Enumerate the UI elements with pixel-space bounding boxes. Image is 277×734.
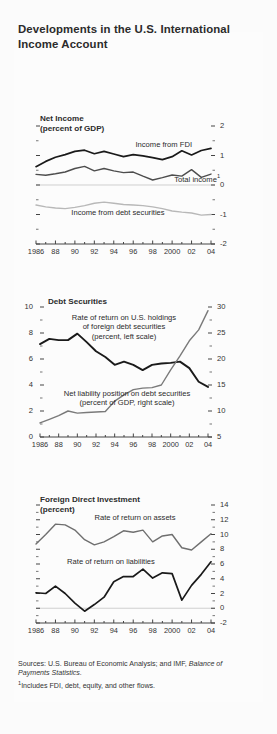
y-axis-label-5: 8 bbox=[220, 544, 224, 553]
y-axis-label-8: 14 bbox=[220, 500, 228, 509]
x-axis-tick-3: 92 bbox=[90, 247, 98, 256]
sources-label: Sources: bbox=[18, 660, 46, 668]
y-axis-label-left-4: 8 bbox=[29, 328, 33, 337]
y-axis-label-right-2: 15 bbox=[217, 380, 225, 389]
y-axis-label-3: 4 bbox=[220, 574, 224, 583]
x-axis-tick-3: 92 bbox=[90, 626, 98, 635]
series-line-0 bbox=[36, 148, 211, 166]
y-axis-label-3: 1 bbox=[220, 151, 224, 160]
chart-panel-net-income: Net Income (percent of GDP) -2-101219868… bbox=[0, 112, 249, 282]
x-axis-tick-1: 88 bbox=[51, 626, 59, 635]
y-axis-label-right-4: 25 bbox=[217, 328, 225, 337]
x-axis-tick-5: 96 bbox=[129, 247, 137, 256]
series-annotation-0: Income from FDI bbox=[112, 140, 192, 149]
y-axis-label-right-3: 20 bbox=[217, 354, 225, 363]
x-axis-tick-3: 92 bbox=[92, 440, 100, 449]
y-axis-label-4: 6 bbox=[220, 559, 224, 568]
x-axis-tick-4: 94 bbox=[110, 247, 118, 256]
footnote-text: Includes FDI, debt, equity, and other fl… bbox=[21, 682, 155, 690]
x-axis-tick-5: 96 bbox=[129, 626, 137, 635]
y-axis-label-0: -2 bbox=[220, 239, 227, 248]
series-line-0 bbox=[40, 334, 208, 387]
x-axis-tick-2: 90 bbox=[71, 247, 79, 256]
y-axis-label-2: 0 bbox=[220, 180, 224, 189]
x-axis-tick-8: 02 bbox=[187, 626, 195, 635]
series-line-1 bbox=[36, 562, 211, 611]
y-axis-label-right-1: 10 bbox=[217, 406, 225, 415]
sources-text: U.S. Bureau of Economic Analysis; and IM… bbox=[48, 660, 187, 668]
panel-3-plot bbox=[36, 505, 245, 639]
x-axis-tick-8: 02 bbox=[185, 440, 193, 449]
x-axis-tick-0: 1986 bbox=[28, 247, 44, 256]
chart-panel-debt-securities: Debt Securities 024681051015202530198688… bbox=[0, 297, 249, 477]
y-axis-label-left-5: 10 bbox=[25, 302, 33, 311]
figure-title: Developments in the U.S. International I… bbox=[18, 22, 234, 51]
series-annotation-2: Income from debt securities bbox=[58, 208, 178, 217]
figure-page: Developments in the U.S. International I… bbox=[0, 0, 277, 734]
x-axis-tick-9: 04 bbox=[204, 440, 212, 449]
panel-2-heading: Debt Securities bbox=[48, 297, 107, 307]
y-axis-label-0: -2 bbox=[220, 618, 227, 627]
y-axis-label-right-0: 5 bbox=[217, 432, 221, 441]
x-axis-tick-7: 2000 bbox=[162, 440, 178, 449]
y-axis-label-4: 2 bbox=[220, 121, 224, 130]
x-axis-tick-7: 2000 bbox=[164, 626, 180, 635]
annotation-footnote-marker: 1 bbox=[217, 173, 220, 179]
x-axis-tick-9: 04 bbox=[207, 626, 215, 635]
x-axis-tick-0: 1986 bbox=[28, 626, 44, 635]
x-axis-tick-2: 90 bbox=[71, 626, 79, 635]
x-axis-tick-6: 98 bbox=[149, 626, 157, 635]
x-axis-tick-5: 96 bbox=[129, 440, 137, 449]
series-line-0 bbox=[36, 524, 211, 550]
y-axis-label-right-5: 30 bbox=[217, 302, 225, 311]
series-annotation-1: Total income1 bbox=[150, 172, 220, 184]
series-annotation-0: Rate of return on assets bbox=[82, 513, 188, 522]
x-axis-tick-6: 98 bbox=[148, 440, 156, 449]
y-axis-label-left-1: 2 bbox=[29, 406, 33, 415]
x-axis-tick-7: 2000 bbox=[164, 247, 180, 256]
y-axis-label-1: -1 bbox=[220, 210, 227, 219]
x-axis-tick-1: 88 bbox=[51, 247, 59, 256]
y-axis-label-2: 2 bbox=[220, 589, 224, 598]
x-axis-tick-1: 88 bbox=[55, 440, 63, 449]
series-annotation-1: Rate of return on liabilities bbox=[52, 557, 170, 566]
chart-panel-fdi: Foreign Direct Investment (percent) -202… bbox=[0, 495, 249, 655]
y-axis-label-7: 12 bbox=[220, 515, 228, 524]
x-axis-tick-0: 1986 bbox=[32, 440, 48, 449]
x-axis-tick-4: 94 bbox=[111, 440, 119, 449]
x-axis-tick-4: 94 bbox=[110, 626, 118, 635]
footnote-note: 1Includes FDI, debt, equity, and other f… bbox=[18, 679, 234, 692]
x-axis-tick-6: 98 bbox=[149, 247, 157, 256]
x-axis-tick-8: 02 bbox=[187, 247, 195, 256]
x-axis-tick-2: 90 bbox=[73, 440, 81, 449]
y-axis-label-left-3: 6 bbox=[29, 354, 33, 363]
sources-note: Sources: U.S. Bureau of Economic Analysi… bbox=[18, 660, 234, 679]
series-annotation-1: Net liability position on debt securitie… bbox=[62, 389, 192, 408]
x-axis-tick-9: 04 bbox=[207, 247, 215, 256]
y-axis-label-left-2: 4 bbox=[29, 380, 33, 389]
y-axis-label-1: 0 bbox=[220, 603, 224, 612]
series-annotation-0: Rate of return on U.S. holdings of forei… bbox=[70, 313, 178, 341]
y-axis-label-6: 10 bbox=[220, 530, 228, 539]
